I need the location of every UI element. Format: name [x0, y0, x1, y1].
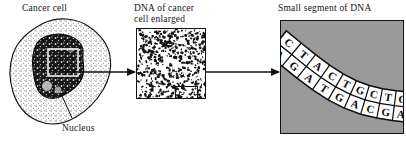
nucleus-label: Nucleus	[62, 123, 95, 134]
dna-enlarged-box	[136, 28, 206, 99]
panel-cancer-cell: Cancer cell	[0, 0, 132, 144]
dna-segment-label: Small segment of DNA	[278, 3, 371, 14]
panel-dna-segment: Small segment of DNA ACGTAATCGTAGCCGTAG	[272, 0, 406, 144]
dna-enlarged-label-line2: cell enlarged	[134, 14, 185, 24]
figure-canvas: Cancer cell	[0, 0, 406, 144]
dna-ladder-drawing: ACGTAATCGTAGCCGTAG	[281, 21, 403, 133]
dna-inner-callout-box	[175, 86, 198, 99]
dna-enlarged-label: DNA of cancercell enlarged	[134, 3, 194, 25]
svg-text:G: G	[398, 93, 403, 106]
svg-text:A: A	[396, 107, 403, 120]
dna-segment-box: ACGTAATCGTAGCCGTAG	[280, 20, 404, 134]
panel-dna-enlarged: DNA of cancercell enlarged	[130, 0, 235, 144]
dna-enlarged-label-line1: DNA of cancer	[134, 3, 194, 13]
